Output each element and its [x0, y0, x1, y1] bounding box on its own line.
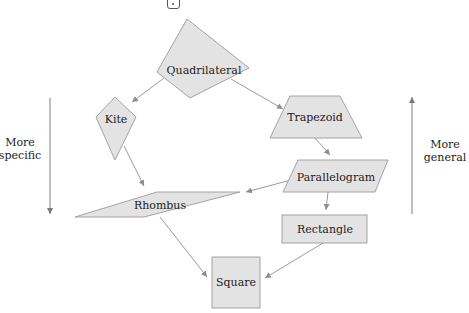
- edge-quadrilateral-trapezoid: [231, 79, 283, 109]
- quadrilateral-hierarchy-diagram: [0, 0, 469, 313]
- square-label: Square: [216, 276, 256, 289]
- kite-label: Kite: [105, 113, 128, 126]
- more-specific-label: More specific: [0, 136, 41, 162]
- parallelogram-label: Parallelogram: [297, 171, 375, 184]
- kite-shape: [96, 97, 136, 160]
- edge-quadrilateral-kite: [132, 78, 164, 102]
- edge-rhombus-square: [160, 217, 207, 277]
- quadrilateral-label: Quadrilateral: [167, 64, 242, 77]
- rectangle-label: Rectangle: [297, 223, 353, 236]
- more-general-label: More general: [424, 138, 466, 164]
- trapezoid-label: Trapezoid: [287, 111, 343, 124]
- edge-kite-rhombus: [124, 146, 144, 186]
- edge-rectangle-square: [265, 243, 323, 278]
- edge-parallelogram-rectangle: [326, 192, 328, 210]
- quadrilateral-shape: [157, 19, 249, 98]
- edge-trapezoid-parallelogram: [315, 138, 330, 155]
- rhombus-label: Rhombus: [134, 199, 186, 212]
